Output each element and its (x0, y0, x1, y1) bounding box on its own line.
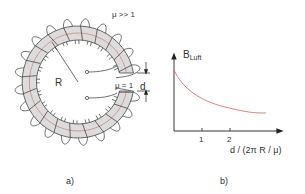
radius-line (52, 42, 78, 82)
bluft-graph: 1 2 BLuft d / (2π R / μ) b) (174, 49, 281, 186)
gap-width-label: d (140, 81, 146, 92)
y-axis-label: BLuft (183, 49, 201, 61)
x-tick-label-2: 2 (227, 135, 232, 144)
toroid-diagram: R μ >> 1 μ = 1 d a) (15, 10, 150, 186)
mu-core-label: μ >> 1 (112, 10, 135, 19)
caption-a: a) (66, 176, 74, 186)
mu-gap-label: μ = 1 (115, 81, 134, 90)
x-axis-label: d / (2π R / μ) (230, 145, 281, 155)
bluft-curve (174, 70, 266, 113)
radius-label: R (55, 77, 62, 88)
x-tick-label-1: 1 (199, 135, 204, 144)
caption-b: b) (220, 176, 228, 186)
figure-canvas: R μ >> 1 μ = 1 d a) 1 2 BLuft d / (2π R … (0, 0, 305, 194)
coil-leads (85, 66, 117, 100)
